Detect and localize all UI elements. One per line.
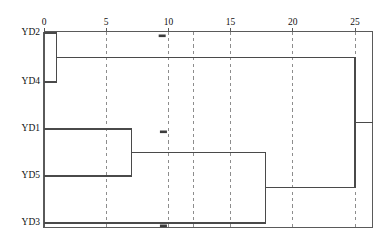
leaf-label-YD1: YD1 — [22, 123, 41, 133]
dendrogram-link-m3 — [44, 153, 265, 224]
speck-mark-1 — [160, 131, 167, 134]
gridlines-group — [106, 32, 355, 228]
speck-mark-2 — [160, 225, 167, 228]
axis-tick-label-0: 0 — [42, 17, 47, 27]
dendrogram-link-m4 — [56, 58, 355, 188]
dendrogram-figure: 0510152025 YD2YD4YD1YD5YD3 — [0, 0, 386, 243]
axis-tick-labels-group: 0510152025 — [42, 17, 360, 27]
leaf-label-YD4: YD4 — [22, 76, 41, 86]
leaf-label-YD2: YD2 — [22, 27, 41, 37]
axis-tick-label-25: 25 — [350, 17, 360, 27]
dendrogram-link-m2 — [44, 129, 131, 176]
speck-mark-0 — [159, 35, 166, 38]
dendrogram-links-group — [44, 33, 373, 223]
dendrogram-link-m1 — [44, 33, 56, 82]
axis-tick-label-5: 5 — [104, 17, 109, 27]
speck-marks-group — [159, 35, 167, 228]
dendrogram-plot: 0510152025 YD2YD4YD1YD5YD3 — [0, 0, 386, 243]
leaf-label-YD5: YD5 — [22, 170, 41, 180]
axis-tick-label-20: 20 — [288, 17, 298, 27]
axis-tick-label-15: 15 — [226, 17, 236, 27]
leaf-label-YD3: YD3 — [22, 217, 41, 227]
axis-tick-label-10: 10 — [164, 17, 174, 27]
leaf-labels-group: YD2YD4YD1YD5YD3 — [22, 27, 41, 227]
